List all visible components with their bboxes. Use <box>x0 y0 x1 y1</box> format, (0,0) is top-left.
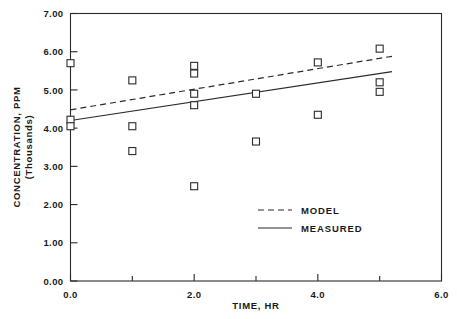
data-point <box>191 62 198 69</box>
y-tick-label: 2.00 <box>43 199 63 210</box>
x-tick-label: 2.0 <box>187 289 201 300</box>
data-point <box>129 148 136 155</box>
data-point <box>191 70 198 77</box>
legend-label-model: MODEL <box>301 205 340 216</box>
data-point <box>191 102 198 109</box>
y-tick-label: 5.00 <box>43 85 63 96</box>
data-point <box>191 183 198 190</box>
plot-background <box>0 0 457 319</box>
data-point <box>129 77 136 84</box>
data-point <box>376 88 383 95</box>
data-point <box>253 90 260 97</box>
legend-label-measured: MEASURED <box>301 223 363 234</box>
y-tick-label: 6.00 <box>43 46 63 57</box>
y-tick-label: 4.00 <box>43 123 63 134</box>
data-point <box>191 90 198 97</box>
y-tick-label: 7.00 <box>43 8 63 19</box>
x-tick-label: 6.0 <box>434 289 448 300</box>
x-tick-label: 4.0 <box>311 289 325 300</box>
y-axis-title-line1: CONCENTRATION, PPM <box>11 86 22 207</box>
scatter-plot: 0.001.002.003.004.005.006.007.00 0.02.04… <box>0 0 457 319</box>
y-tick-label: 1.00 <box>43 237 63 248</box>
chart-container: 0.001.002.003.004.005.006.007.00 0.02.04… <box>0 0 457 319</box>
y-tick-label: 3.00 <box>43 161 63 172</box>
data-point <box>253 138 260 145</box>
data-point <box>67 60 74 67</box>
x-axis-title: TIME, HR <box>232 300 279 311</box>
data-point <box>67 123 74 130</box>
data-point <box>376 45 383 52</box>
data-point <box>376 79 383 86</box>
data-point <box>314 59 321 66</box>
data-point <box>129 123 136 130</box>
y-tick-label: 0.00 <box>43 276 63 287</box>
data-point <box>314 111 321 118</box>
y-axis-title-line2: (Thousands) <box>23 115 34 180</box>
x-tick-label: 0.0 <box>63 289 77 300</box>
